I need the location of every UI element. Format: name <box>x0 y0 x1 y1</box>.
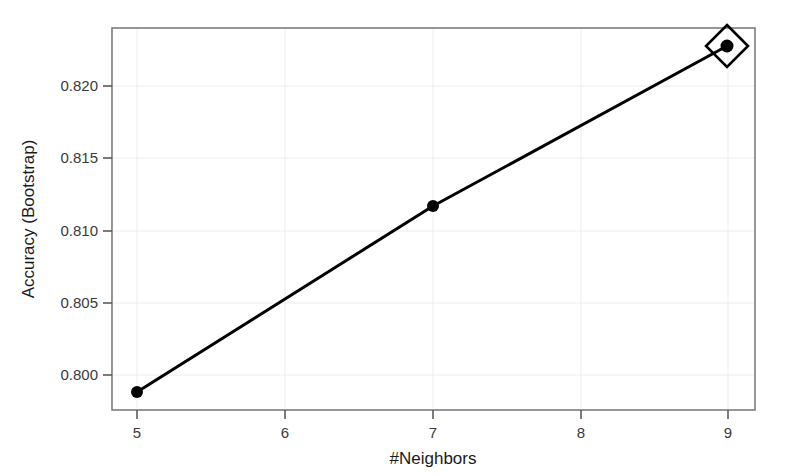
x-tick-label-6: 6 <box>281 424 289 441</box>
x-tick-label-5: 5 <box>133 424 141 441</box>
y-tick-label-0820: 0.820 <box>60 77 98 94</box>
x-tick-label-7: 7 <box>429 424 437 441</box>
y-tick-label-0805: 0.805 <box>60 294 98 311</box>
x-axis-tick-labels: 5 6 7 8 9 <box>133 424 732 441</box>
y-tick-label-0810: 0.810 <box>60 222 98 239</box>
data-point-k5[interactable] <box>131 386 143 398</box>
y-tick-label-0815: 0.815 <box>60 149 98 166</box>
line-chart: 0.820 0.815 0.810 0.805 0.800 5 6 7 8 9 <box>0 0 797 476</box>
y-tick-label-0800: 0.800 <box>60 366 98 383</box>
x-tick-label-9: 9 <box>724 424 732 441</box>
data-point-k9[interactable] <box>721 40 734 53</box>
y-axis-tick-labels: 0.820 0.815 0.810 0.805 0.800 <box>60 77 98 383</box>
data-point-k7[interactable] <box>427 200 439 212</box>
x-axis-title: #Neighbors <box>390 449 477 468</box>
chart-container: 0.820 0.815 0.810 0.805 0.800 5 6 7 8 9 <box>0 0 797 476</box>
y-axis-title: Accuracy (Bootstrap) <box>19 140 38 299</box>
x-axis-ticks <box>137 410 728 419</box>
x-tick-label-8: 8 <box>577 424 585 441</box>
y-axis-ticks <box>103 86 112 375</box>
